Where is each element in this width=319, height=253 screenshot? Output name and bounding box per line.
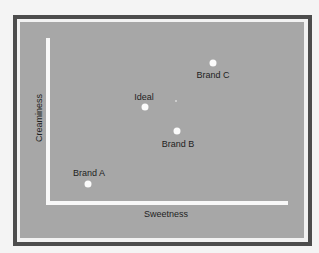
point-brand-c — [210, 60, 217, 67]
x-axis-line — [46, 201, 288, 205]
speck-mark — [175, 100, 177, 102]
point-label-brand-b: Brand B — [162, 139, 195, 149]
point-ideal — [142, 104, 149, 111]
point-label-brand-c: Brand C — [196, 70, 229, 80]
y-axis-line — [46, 38, 50, 205]
point-label-ideal: Ideal — [134, 92, 154, 102]
point-brand-b — [174, 128, 181, 135]
point-brand-a — [85, 181, 92, 188]
point-label-brand-a: Brand A — [73, 168, 105, 178]
plot-area — [20, 22, 304, 238]
y-axis-label: Creaminess — [34, 94, 44, 142]
x-axis-label: Sweetness — [144, 209, 188, 219]
